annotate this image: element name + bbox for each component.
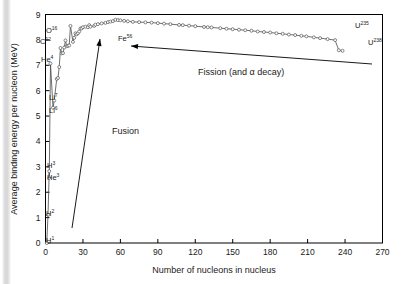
x-tick-label: 0: [43, 247, 48, 257]
element-point-labels: H1H2He3H3Li6Li7He4C12O16Fe56U235U238: [40, 20, 382, 245]
data-point-marker: [123, 19, 126, 22]
y-tick-label: 0: [36, 238, 41, 248]
data-markers: [45, 18, 344, 244]
data-point-marker: [341, 49, 344, 52]
x-tick-label: 150: [226, 247, 240, 257]
data-point-marker: [250, 29, 253, 32]
chart-figure: 0306090120150180210240270 0123456789 H1H…: [0, 0, 402, 284]
element-label-h3: H3: [47, 160, 55, 170]
data-point-marker: [256, 30, 259, 33]
x-tick-label: 90: [153, 247, 163, 257]
data-point-marker: [68, 44, 71, 47]
data-point-marker: [156, 22, 159, 25]
data-point-marker: [219, 27, 222, 30]
plot-frame: [46, 15, 383, 244]
data-point-marker: [334, 39, 337, 42]
data-point-marker: [163, 22, 166, 25]
element-label-fe56: Fe56: [118, 33, 133, 43]
annotation-arrow-fission: [131, 46, 372, 64]
data-point-marker: [312, 36, 315, 39]
data-point-marker: [169, 23, 172, 26]
data-point-marker: [188, 24, 191, 27]
element-label-li7: Li7: [49, 92, 58, 102]
data-point-marker: [181, 24, 184, 27]
x-axis-title: Number of nucleons in nucleus: [152, 265, 276, 275]
data-point-marker: [78, 30, 81, 33]
data-point-marker: [203, 25, 206, 28]
data-point-marker: [96, 23, 99, 26]
y-tick-label: 2: [36, 187, 41, 197]
data-point-marker: [262, 31, 265, 34]
data-point-marker: [287, 33, 290, 36]
binding-energy-chart: 0306090120150180210240270 0123456789 H1H…: [0, 0, 402, 284]
data-point-marker: [56, 76, 59, 79]
y-tick-label: 3: [36, 162, 41, 172]
data-point-marker: [61, 52, 64, 55]
data-point-marker: [225, 27, 228, 30]
data-point-marker: [150, 21, 153, 24]
data-point-marker: [269, 31, 272, 34]
data-point-marker: [275, 32, 278, 35]
data-point-marker: [206, 26, 209, 29]
data-point-marker: [294, 34, 297, 37]
y-tick-label: 1: [36, 213, 41, 223]
annotation-fusion-label: Fusion: [112, 126, 139, 136]
data-line: [47, 20, 343, 243]
data-series-layer: [45, 18, 344, 244]
data-point-marker: [337, 49, 340, 52]
data-point-marker: [244, 29, 247, 32]
annotation-arrow-fusion: [72, 39, 100, 228]
y-tick-label: 9: [36, 10, 41, 20]
x-axis-ticks: 0306090120150180210240270: [43, 239, 390, 257]
data-point-marker: [126, 20, 129, 23]
data-point-marker: [58, 66, 61, 69]
data-point-marker: [231, 28, 234, 31]
y-tick-label: 4: [36, 136, 41, 146]
data-point-marker: [73, 36, 76, 39]
data-point-marker: [281, 32, 284, 35]
data-point-marker: [89, 25, 92, 28]
data-point-marker: [178, 23, 181, 26]
element-label-u235: U235: [355, 20, 369, 30]
data-point-marker: [138, 21, 141, 24]
x-tick-label: 270: [375, 247, 389, 257]
element-label-u238: U238: [368, 37, 382, 47]
data-point-marker: [300, 34, 303, 37]
data-point-marker: [69, 24, 72, 27]
data-point-marker: [64, 39, 67, 42]
data-point-marker: [194, 25, 197, 28]
annotation-arrowhead-fusion: [96, 39, 101, 46]
data-point-marker: [305, 35, 308, 38]
scan-artifact-band: [2, 0, 11, 284]
data-point-marker: [131, 20, 134, 23]
data-point-marker: [237, 28, 240, 31]
element-label-li6: Li6: [49, 105, 58, 115]
y-tick-label: 6: [36, 86, 41, 96]
element-label-o16: O16: [46, 25, 58, 35]
data-point-marker: [319, 37, 322, 40]
element-label-h2: H2: [46, 208, 54, 218]
y-tick-label: 5: [36, 111, 41, 121]
annotation-fission-label: Fission (and α decay): [198, 67, 284, 77]
x-tick-label: 180: [263, 247, 277, 257]
x-tick-label: 30: [78, 247, 88, 257]
x-tick-label: 210: [301, 247, 315, 257]
element-label-h1: H1: [46, 235, 54, 245]
data-point-marker: [326, 38, 329, 41]
x-tick-label: 120: [188, 247, 202, 257]
element-label-he3: He3: [47, 172, 60, 182]
x-tick-label: 240: [338, 247, 352, 257]
data-point-marker: [119, 19, 122, 22]
data-point-marker: [100, 22, 103, 25]
data-point-marker: [71, 40, 74, 43]
x-tick-label: 60: [116, 247, 126, 257]
data-point-marker: [59, 47, 62, 50]
data-point-marker: [144, 21, 147, 24]
data-point-marker: [210, 26, 213, 29]
